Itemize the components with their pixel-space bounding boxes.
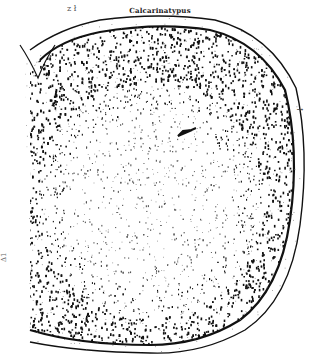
cortex-section-illustration <box>0 0 315 359</box>
left-label: Δ1 <box>0 252 8 262</box>
top-label: z ł <box>67 4 76 13</box>
figure-title: Calcarinatypus <box>100 6 220 15</box>
outer-membrane <box>30 16 304 353</box>
right-label: ↑ <box>295 106 304 113</box>
arrow-icon <box>178 128 196 136</box>
